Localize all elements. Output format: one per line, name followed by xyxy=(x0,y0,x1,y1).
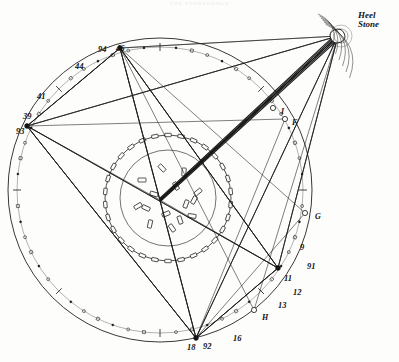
feature-label-I: I xyxy=(281,108,284,116)
sarsen-stone xyxy=(225,214,230,221)
ray-from-11 xyxy=(27,126,278,268)
sarsen-stone xyxy=(105,214,110,221)
aubrey-hole xyxy=(143,47,145,49)
heel-stone-label: HeelStone xyxy=(358,11,379,29)
sarsen-stone xyxy=(190,138,197,144)
ray-from-heel xyxy=(254,36,338,310)
sarsen-stone xyxy=(201,144,208,151)
sarsen-stone xyxy=(151,257,158,262)
ray-from-11 xyxy=(160,200,278,268)
station-label-9: 9 xyxy=(300,243,304,252)
solstice-axis-ray xyxy=(160,33,337,198)
station-stone-93 xyxy=(25,124,30,129)
sarsen-stone xyxy=(103,201,107,208)
ray-from-93 xyxy=(27,48,120,126)
inner-stone xyxy=(142,205,151,212)
sarsen-stone xyxy=(118,237,125,244)
sarsen-stone xyxy=(219,226,225,233)
aubrey-hole xyxy=(17,173,19,175)
station-label-11: 11 xyxy=(284,274,292,283)
feature-label-F: F xyxy=(292,119,297,127)
aubrey-hole xyxy=(175,47,177,49)
aubrey-hole xyxy=(97,60,99,62)
stonehenge-plan-figure xyxy=(0,0,399,362)
aubrey-hole xyxy=(221,60,223,62)
inner-stone xyxy=(147,220,153,229)
feature-stone-H xyxy=(251,307,256,312)
aubrey-hole xyxy=(112,324,114,326)
ray-from-18 xyxy=(196,268,278,338)
sarsen-stone xyxy=(165,133,171,136)
feature-stone-G xyxy=(302,210,307,215)
sarsen-stone xyxy=(105,175,110,182)
inner-stone xyxy=(177,216,183,225)
sarsen-stone xyxy=(225,175,230,182)
aubrey-hole xyxy=(70,301,72,303)
inner-stone xyxy=(134,202,143,210)
station-stone-18 xyxy=(194,336,199,341)
sarsen-stone xyxy=(151,134,158,139)
inner-stone xyxy=(158,164,166,173)
heel-stone-label-line2: Stone xyxy=(358,19,379,29)
station-label-13: 13 xyxy=(278,301,287,310)
sarsen-stone xyxy=(127,246,134,253)
station-label-16: 16 xyxy=(233,334,242,343)
ray-from-18 xyxy=(27,126,196,338)
sarsen-stone xyxy=(229,188,233,195)
station-label-93: 93 xyxy=(16,127,25,136)
station-label-18: 18 xyxy=(187,343,196,352)
inner-stone xyxy=(183,200,189,209)
feature-label-G: G xyxy=(315,213,321,221)
inner-stone xyxy=(138,178,146,182)
inner-stone xyxy=(168,224,176,233)
sarsen-stone xyxy=(178,257,185,262)
sarsen-stone xyxy=(139,253,146,259)
station-label-46: 46 xyxy=(116,44,125,53)
feature-stone-F xyxy=(282,116,287,121)
station-label-12: 12 xyxy=(293,288,302,297)
sarsen-stone xyxy=(219,163,225,170)
aubrey-hole xyxy=(288,127,290,129)
station-label-92: 92 xyxy=(203,342,212,351)
ray-from-heel xyxy=(278,36,338,268)
sarsen-stone xyxy=(190,253,197,259)
inner-stone xyxy=(190,196,197,205)
aubrey-hole xyxy=(298,221,300,223)
sarsen-stone xyxy=(165,259,171,262)
aubrey-hole xyxy=(38,265,40,267)
feature-label-H: H xyxy=(262,314,268,322)
ray-from-46 xyxy=(120,48,305,213)
feature-stone-I xyxy=(270,105,275,110)
station-label-94: 94 xyxy=(98,45,107,54)
ray-from-heel xyxy=(196,36,338,338)
station-label-44: 44 xyxy=(75,62,84,71)
station-label-39: 39 xyxy=(23,112,32,121)
station-label-41: 41 xyxy=(37,92,46,101)
station-stone-11 xyxy=(276,266,281,271)
sarsen-stone xyxy=(103,188,107,195)
sarsen-stone xyxy=(201,246,208,253)
station-label-91: 91 xyxy=(307,262,316,271)
sarsen-stone xyxy=(110,163,116,170)
aubrey-hole xyxy=(19,221,21,223)
sarsen-stone xyxy=(127,144,134,151)
sarsen-stone xyxy=(118,152,125,159)
